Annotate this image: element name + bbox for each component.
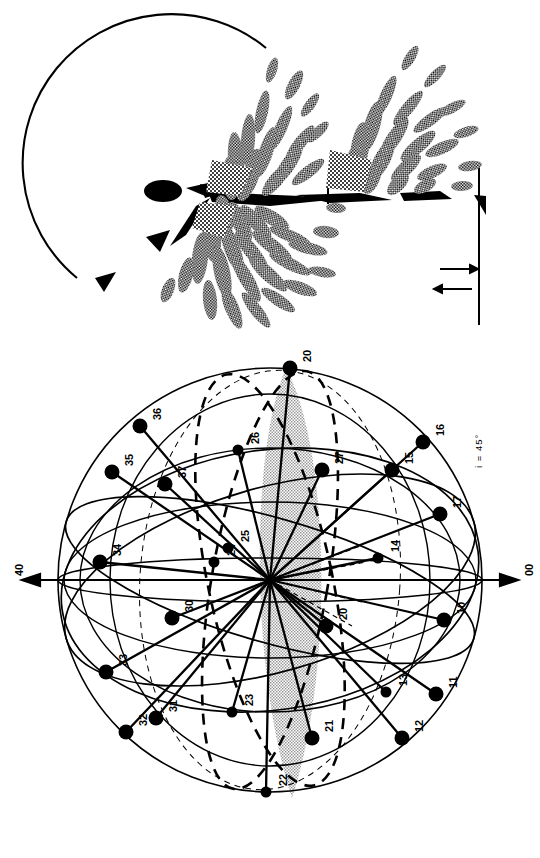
node-label: 22	[278, 774, 289, 786]
node-marker	[158, 477, 173, 492]
field-pattern-svg	[0, 0, 540, 340]
node-label: 24	[226, 544, 237, 556]
node-label: 16	[435, 424, 446, 436]
node-marker	[416, 435, 431, 450]
node-label: 13	[398, 674, 409, 686]
node-marker	[93, 555, 108, 570]
node-marker	[165, 611, 180, 626]
node-marker	[99, 665, 114, 680]
node-marker	[233, 445, 244, 456]
inclination-annotation: i = 45°	[474, 434, 484, 468]
node-marker	[395, 731, 410, 746]
node-label: 20	[338, 608, 349, 620]
node-label: 37	[177, 466, 188, 478]
node-marker	[385, 463, 400, 478]
node-label: 14	[390, 540, 401, 552]
node-marker	[373, 553, 384, 564]
node-label: 17	[452, 496, 463, 508]
node-label: 32	[138, 714, 149, 726]
halftone-lobes-lower	[158, 194, 347, 331]
node-label: 36	[152, 408, 163, 420]
figure-page: 2036162635371527173414252430102033131131…	[0, 0, 540, 858]
node-marker	[305, 731, 320, 746]
sphere-svg	[0, 340, 540, 858]
node-label: 34	[112, 544, 123, 556]
node-label: 35	[124, 454, 135, 466]
axis-label-left: 40	[14, 564, 25, 576]
node-label: 26	[250, 432, 261, 444]
vector-field-pattern-panel	[0, 0, 540, 340]
sphere-diagram-panel: 2036162635371527173414252430102033131131…	[0, 340, 540, 858]
node-label: 21	[324, 720, 335, 732]
node-label: 10	[456, 602, 467, 614]
node-marker	[119, 725, 134, 740]
node-label: 27	[334, 452, 345, 464]
axis-label-right: 00	[524, 564, 535, 576]
node-marker	[429, 687, 444, 702]
node-marker	[437, 613, 452, 628]
node-label: 12	[414, 720, 425, 732]
node-label: 11	[448, 676, 459, 688]
node-marker	[149, 711, 164, 726]
node-marker	[209, 557, 220, 568]
node-label: 15	[404, 452, 415, 464]
node-marker	[133, 419, 148, 434]
node-label: 30	[184, 600, 195, 612]
node-marker	[105, 465, 120, 480]
node-label: 33	[118, 654, 129, 666]
node-marker	[315, 463, 330, 478]
node-marker	[433, 507, 448, 522]
node-label: 23	[244, 694, 255, 706]
node-marker	[381, 687, 392, 698]
node-marker	[283, 361, 298, 376]
node-label: 25	[240, 530, 251, 542]
node-label: 31	[168, 700, 179, 712]
node-marker	[319, 619, 334, 634]
node-label: 20	[302, 350, 313, 362]
node-marker	[227, 707, 238, 718]
node-marker	[261, 787, 272, 798]
arrow-legend	[434, 265, 478, 293]
